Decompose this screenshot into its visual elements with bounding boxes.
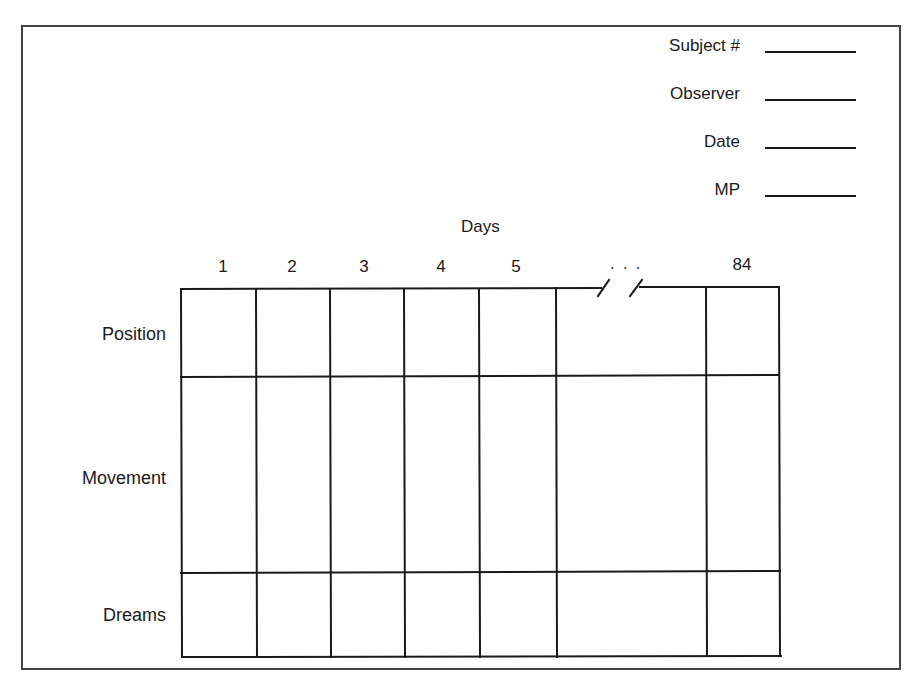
cell-position-day-84[interactable]: [707, 288, 779, 375]
cell-movement-day-2[interactable]: [257, 378, 330, 573]
cell-movement-day-84[interactable]: [707, 376, 779, 571]
cell-movement-day-4[interactable]: [405, 378, 479, 573]
grid-top-left: [181, 288, 601, 289]
cell-dreams-day-3[interactable]: [331, 574, 404, 657]
cell-dreams-day-4[interactable]: [405, 574, 479, 657]
cell-movement-day-1[interactable]: [182, 378, 256, 573]
cell-dreams-day-2[interactable]: [257, 574, 330, 657]
cell-movement-day-3[interactable]: [331, 378, 404, 573]
cell-dreams-day-1[interactable]: [182, 574, 256, 657]
cell-movement-day-5[interactable]: [480, 378, 556, 573]
cell-position-day-5[interactable]: [480, 290, 556, 377]
cell-position-day-3[interactable]: [331, 290, 404, 377]
cell-position-day-1[interactable]: [182, 290, 256, 377]
cell-dreams-day-84[interactable]: [707, 572, 779, 656]
cell-dreams-days-gap[interactable]: [557, 573, 706, 656]
cell-movement-days-gap[interactable]: [557, 377, 706, 572]
cell-dreams-day-5[interactable]: [480, 574, 556, 657]
cell-position-days-gap[interactable]: [557, 289, 706, 376]
cell-position-day-4[interactable]: [405, 290, 479, 377]
cell-position-day-2[interactable]: [257, 290, 330, 377]
